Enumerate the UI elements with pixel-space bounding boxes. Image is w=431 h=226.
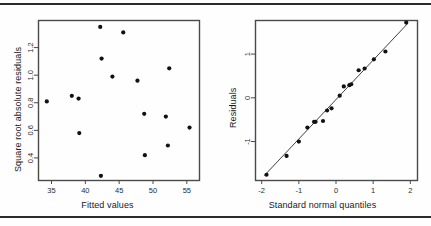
data-point: [313, 120, 317, 124]
data-point: [45, 99, 49, 103]
data-point: [121, 30, 125, 34]
data-point: [166, 143, 170, 147]
normal-qq-plot: -2-1012-101 Standard normal quantiles: [215, 0, 430, 216]
data-point: [164, 114, 168, 118]
bottom-horizontal-rule: [0, 216, 431, 218]
x-axis-title-fitted-values: Fitted values: [0, 200, 215, 210]
data-point: [329, 106, 333, 110]
data-point: [142, 112, 146, 116]
data-point: [305, 125, 309, 129]
plot-frame: [39, 21, 200, 181]
y-tick-label: -1: [243, 138, 252, 145]
data-point: [321, 119, 325, 123]
y-axis-title-sqrt-abs-residuals: Square root absolute residuals: [13, 47, 23, 172]
y-tick-label: 0.4: [26, 153, 35, 163]
data-point: [342, 84, 346, 88]
y-tick-label: 1: [243, 52, 252, 56]
data-point: [338, 94, 342, 98]
data-point: [99, 174, 103, 178]
scale-location-plot-canvas: 35404550550.40.60.81.01.2: [0, 0, 215, 216]
data-point: [357, 68, 361, 72]
x-tick-label: 1: [371, 186, 375, 195]
data-point: [349, 82, 353, 86]
x-tick-label: -1: [296, 186, 303, 195]
x-tick-label: 55: [183, 186, 191, 195]
data-point: [70, 94, 74, 98]
data-point: [383, 49, 387, 53]
y-tick-label: 0.6: [26, 125, 35, 135]
y-tick-label: 0: [243, 96, 252, 100]
normal-qq-plot-canvas: -2-1012-101: [215, 0, 430, 216]
data-point: [264, 173, 268, 177]
data-point: [372, 57, 376, 61]
x-tick-label: 0: [334, 186, 338, 195]
data-point: [187, 125, 191, 129]
x-axis-title-standard-normal-quantiles: Standard normal quantiles: [215, 200, 430, 210]
data-point: [76, 97, 80, 101]
data-point: [363, 66, 367, 70]
data-point: [297, 139, 301, 143]
x-tick-label: 35: [47, 186, 55, 195]
y-tick-label: 0.8: [26, 98, 35, 108]
data-point: [143, 153, 147, 157]
data-point: [284, 154, 288, 158]
x-tick-label: 2: [408, 186, 412, 195]
x-tick-label: 45: [115, 186, 123, 195]
data-point: [99, 57, 103, 61]
y-axis-title-residuals: Residuals: [228, 88, 238, 128]
data-point: [404, 21, 408, 25]
y-tick-label: 1.0: [26, 70, 35, 80]
data-point: [135, 79, 139, 83]
data-point: [325, 108, 329, 112]
figure-page: 35404550550.40.60.81.01.2 Fitted values …: [0, 0, 431, 226]
y-tick-label: 1.2: [26, 42, 35, 52]
qq-reference-line: [264, 23, 407, 175]
data-point: [77, 131, 81, 135]
plot-frame: [256, 21, 418, 181]
x-tick-label: -2: [258, 186, 265, 195]
x-tick-label: 50: [149, 186, 157, 195]
data-point: [98, 25, 102, 29]
data-point: [110, 74, 114, 78]
x-tick-label: 40: [81, 186, 89, 195]
scale-location-plot: 35404550550.40.60.81.01.2 Fitted values …: [0, 0, 215, 216]
data-point: [167, 66, 171, 70]
